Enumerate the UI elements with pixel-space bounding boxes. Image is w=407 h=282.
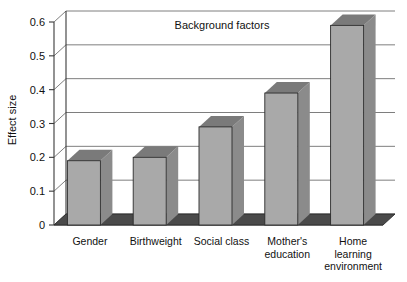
chart-title: Background factors: [175, 19, 270, 31]
grid-depth-connector: [54, 11, 66, 22]
bar-front-face: [133, 157, 166, 225]
y-axis-title: Effect size: [6, 95, 18, 146]
grid-depth-connector: [54, 113, 66, 124]
y-tick-label: 0.5: [30, 50, 45, 62]
x-category-label: Mother'seducation: [265, 235, 311, 260]
x-category-label: Homelearningenvironment: [324, 235, 382, 272]
bar-front-face: [331, 25, 364, 225]
y-tick-label: 0.3: [30, 118, 45, 130]
bar-column: [265, 82, 310, 225]
bar-front-face: [265, 93, 298, 225]
x-category-label: Gender: [72, 235, 108, 247]
y-tick-labels-group: 00.10.20.30.40.50.6: [30, 16, 45, 231]
y-tick-label: 0: [39, 219, 45, 231]
grid-depth-connector: [54, 180, 66, 191]
x-category-label: Birthweight: [130, 235, 182, 247]
bar-side-face: [100, 150, 112, 225]
bar-side-face: [364, 14, 376, 225]
x-category-labels-group: GenderBirthweightSocial classMother'sedu…: [72, 235, 382, 272]
bar-chart: 00.10.20.30.40.50.6 GenderBirthweightSoc…: [0, 0, 407, 282]
bar-side-face: [232, 116, 244, 225]
bar-side-face: [298, 82, 310, 225]
bar-front-face: [67, 161, 100, 225]
grid-depth-connector: [54, 79, 66, 90]
y-tick-label: 0.6: [30, 16, 45, 28]
bar-column: [67, 150, 112, 225]
bar-column: [331, 14, 376, 225]
bar-side-face: [166, 146, 178, 225]
y-tick-label: 0.4: [30, 84, 45, 96]
bar-front-face: [199, 127, 232, 225]
bars-group: [67, 14, 375, 225]
y-tick-label: 0.2: [30, 151, 45, 163]
grid-depth-connector: [54, 45, 66, 56]
y-tick-label: 0.1: [30, 185, 45, 197]
bar-column: [133, 146, 178, 225]
grid-depth-connector: [54, 146, 66, 157]
x-category-label: Social class: [194, 235, 249, 247]
bar-column: [199, 116, 244, 225]
chart-container: 00.10.20.30.40.50.6 GenderBirthweightSoc…: [0, 0, 407, 282]
